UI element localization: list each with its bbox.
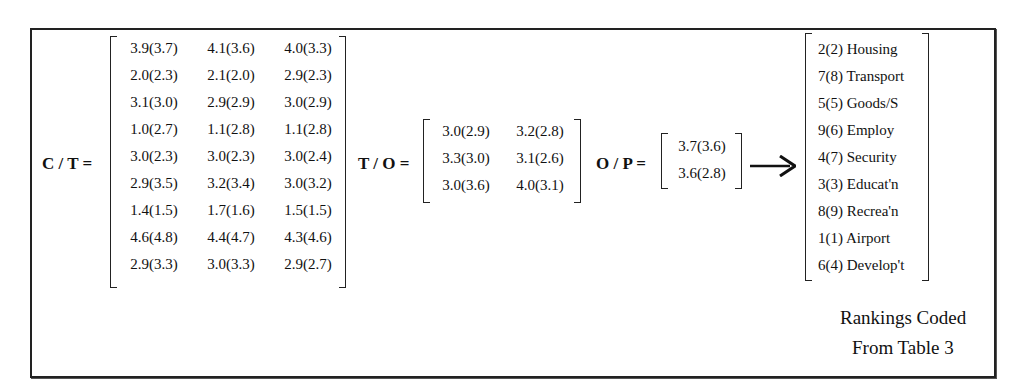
ct-cell: 4.3(4.6) [270, 224, 346, 251]
to-cell: 4.0(3.1) [503, 172, 577, 199]
ranking-item: 9(6) Employ [818, 117, 904, 144]
ct-cell: 3.0(2.3) [116, 143, 192, 170]
ct-cell: 2.9(2.9) [192, 89, 270, 116]
ct-cell: 4.4(4.7) [192, 224, 270, 251]
ct-cell: 3.9(3.7) [116, 35, 192, 62]
ct-cell: 2.9(2.3) [270, 62, 346, 89]
ct-cell: 1.1(2.8) [192, 116, 270, 143]
ranking-item: 3(3) Educat'n [818, 171, 904, 198]
right-arrow-icon [750, 155, 796, 177]
ct-cell: 4.0(3.3) [270, 35, 346, 62]
ct-cell: 4.1(3.6) [192, 35, 270, 62]
ct-cell: 3.0(3.2) [270, 170, 346, 197]
ct-grid: 3.9(3.7)4.1(3.6)4.0(3.3)2.0(2.3)2.1(2.0)… [116, 35, 346, 278]
ct-cell: 3.0(2.4) [270, 143, 346, 170]
to-grid: 3.0(2.9)3.2(2.8)3.3(3.0)3.1(2.6)3.0(3.6)… [429, 118, 577, 199]
to-cell: 3.3(3.0) [429, 145, 503, 172]
to-cell: 3.2(2.8) [503, 118, 577, 145]
ct-cell: 2.9(2.7) [270, 251, 346, 278]
ranking-item: 7(8) Transport [818, 63, 904, 90]
ct-cell: 2.0(2.3) [116, 62, 192, 89]
ct-cell: 3.1(3.0) [116, 89, 192, 116]
ct-cell: 2.1(2.0) [192, 62, 270, 89]
ranking-item: 1(1) Airport [818, 225, 904, 252]
op-matrix: 3.7(3.6)3.6(2.8) [661, 133, 742, 189]
ct-cell: 4.6(4.8) [116, 224, 192, 251]
ct-cell: 3.0(3.3) [192, 251, 270, 278]
op-label: O / P = [596, 155, 646, 172]
ct-cell: 2.9(3.5) [116, 170, 192, 197]
op-cell: 3.7(3.6) [667, 133, 737, 160]
to-matrix: 3.0(2.9)3.2(2.8)3.3(3.0)3.1(2.6)3.0(3.6)… [423, 119, 581, 203]
ct-cell: 3.2(3.4) [192, 170, 270, 197]
to-label: T / O = [358, 155, 409, 172]
rankings-left-bracket [805, 33, 812, 281]
op-grid: 3.7(3.6)3.6(2.8) [667, 133, 737, 187]
caption-line-1: Rankings Coded [840, 308, 966, 327]
rankings-right-bracket [922, 33, 929, 281]
to-cell: 3.0(3.6) [429, 172, 503, 199]
ranking-item: 6(4) Develop't [818, 252, 904, 279]
op-cell: 3.6(2.8) [667, 160, 737, 187]
to-cell: 3.0(2.9) [429, 118, 503, 145]
ct-cell: 1.4(1.5) [116, 197, 192, 224]
ranking-item: 4(7) Security [818, 144, 904, 171]
to-cell: 3.1(2.6) [503, 145, 577, 172]
ct-cell: 1.0(2.7) [116, 116, 192, 143]
ct-cell: 1.5(1.5) [270, 197, 346, 224]
caption-line-2: From Table 3 [852, 338, 954, 357]
ranking-item: 5(5) Goods/S [818, 90, 904, 117]
ct-cell: 1.1(2.8) [270, 116, 346, 143]
ct-cell: 3.0(2.9) [270, 89, 346, 116]
ct-cell: 1.7(1.6) [192, 197, 270, 224]
ct-label: C / T = [42, 155, 92, 172]
rankings-list: 2(2) Housing7(8) Transport5(5) Goods/S9(… [818, 36, 904, 279]
ct-matrix: 3.9(3.7)4.1(3.6)4.0(3.3)2.0(2.3)2.1(2.0)… [110, 36, 346, 288]
ct-cell: 3.0(2.3) [192, 143, 270, 170]
ranking-item: 8(9) Recrea'n [818, 198, 904, 225]
ct-cell: 2.9(3.3) [116, 251, 192, 278]
ranking-item: 2(2) Housing [818, 36, 904, 63]
